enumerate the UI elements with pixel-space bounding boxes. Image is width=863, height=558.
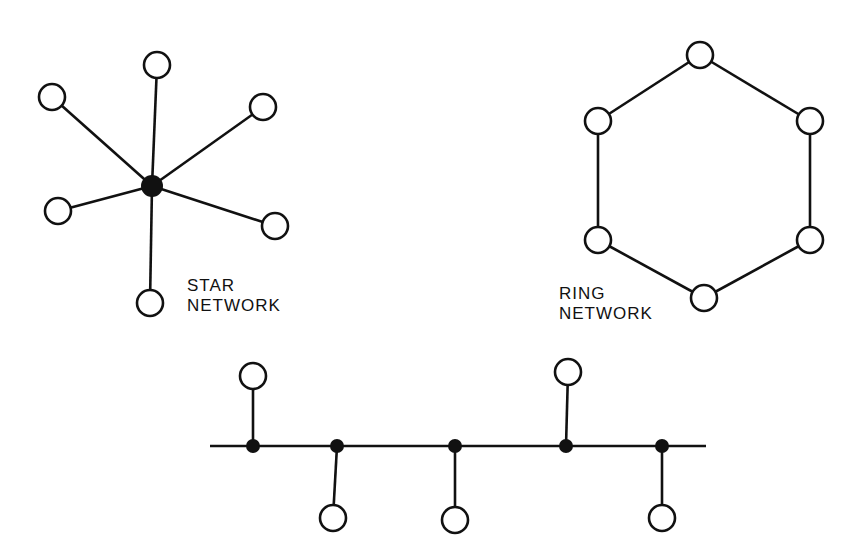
ring-label-line1: RING: [559, 284, 653, 304]
ring-node: [797, 108, 823, 134]
bus-tap: [655, 439, 669, 453]
bus-network: [210, 359, 706, 533]
star-link: [150, 186, 152, 303]
ring-node: [585, 108, 611, 134]
ring-node: [691, 285, 717, 311]
bus-node: [240, 363, 266, 389]
bus-node: [649, 505, 675, 531]
ring-label-line2: NETWORK: [559, 304, 653, 324]
bus-tap: [448, 439, 462, 453]
star-node: [144, 52, 170, 78]
star-link: [152, 186, 275, 226]
star-label-line1: STAR: [187, 276, 281, 296]
bus-node: [442, 507, 468, 533]
star-node: [45, 198, 71, 224]
bus-node: [555, 359, 581, 385]
star-link: [58, 186, 152, 211]
ring-link: [598, 55, 700, 121]
bus-tap: [330, 439, 344, 453]
network-topologies-diagram: [0, 0, 863, 558]
ring-network: [585, 42, 823, 311]
ring-link: [704, 240, 810, 298]
star-label-line2: NETWORK: [187, 296, 281, 316]
star-link: [152, 65, 157, 186]
star-node: [262, 213, 288, 239]
ring-network-label: RING NETWORK: [559, 284, 653, 324]
ring-link: [700, 55, 810, 121]
star-hub: [141, 175, 163, 197]
star-node: [39, 84, 65, 110]
star-link: [152, 107, 263, 186]
star-node: [250, 94, 276, 120]
star-node: [137, 290, 163, 316]
ring-node: [585, 227, 611, 253]
star-network-label: STAR NETWORK: [187, 276, 281, 316]
ring-node: [797, 227, 823, 253]
bus-tap: [559, 439, 573, 453]
ring-node: [687, 42, 713, 68]
bus-node: [320, 505, 346, 531]
star-link: [52, 97, 152, 186]
bus-tap: [246, 439, 260, 453]
